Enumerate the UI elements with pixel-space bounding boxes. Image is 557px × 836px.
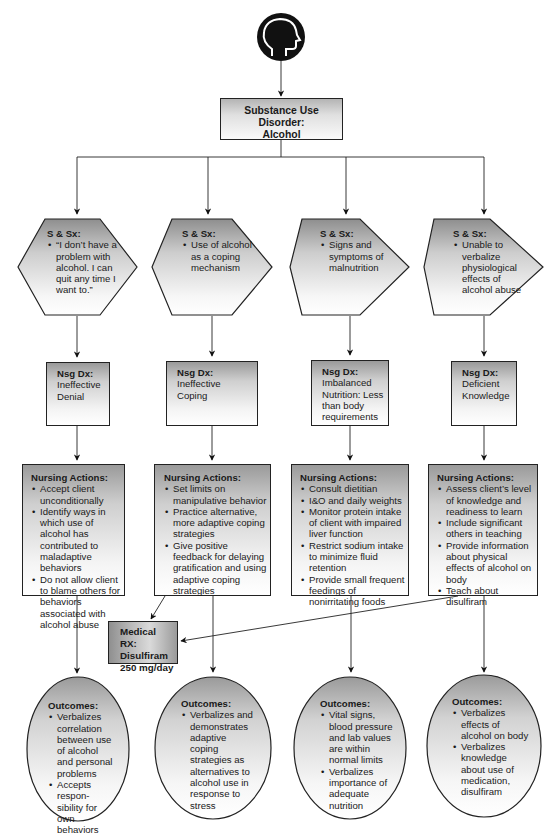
root-line-1: Substance Use (225, 105, 338, 117)
nsg-dx-text: Imbalanced Nutrition: Less than body req… (322, 377, 383, 422)
nursing-action-item: Give positive feedback for delaying grat… (173, 540, 267, 596)
nursing-actions-2: Nursing Actions: Set limits on manipulat… (154, 464, 271, 596)
nursing-action-item: Practice alternative, more adaptive copi… (173, 506, 267, 540)
signs-symptoms-4: S & Sx: Unable to verbalize physiologica… (453, 228, 525, 296)
outcomes-2: Outcomes: Verbalizes and demonstrates ad… (181, 698, 255, 811)
medical-rx-drug: Disulfiram (120, 650, 174, 662)
outcomes-heading: Outcomes: (452, 696, 532, 707)
outcome-item: Vital signs, blood pressure and lab valu… (329, 709, 394, 765)
medical-rx-heading: Medical RX: (120, 626, 174, 650)
nursing-actions-4: Nursing Actions: Assess client’s level o… (428, 464, 538, 596)
nursing-actions-heading: Nursing Actions: (31, 472, 121, 483)
outcomes-3: Outcomes: Vital signs, blood pressure an… (320, 698, 394, 811)
nursing-dx-4: Nsg Dx: Deficient Knowledge (451, 361, 517, 426)
nsg-dx-text: Deficient Knowledge (462, 378, 509, 400)
root-node-substance-use-disorder: Substance Use Disorder: Alcohol (220, 98, 343, 140)
nsg-dx-heading: Nsg Dx: (322, 366, 384, 377)
nursing-action-item: Assess client’s level of knowledge and r… (446, 483, 534, 517)
nursing-actions-3: Nursing Actions: Consult dietitian I&O a… (291, 464, 409, 596)
outcome-item: Verbalizes correlation between use of al… (57, 711, 114, 779)
outcomes-heading: Outcomes: (320, 698, 394, 709)
hex-item: “I don’t have a problem with alcohol. I … (56, 239, 119, 295)
outcome-item: Accepts respon-sibility for own behavior… (57, 779, 114, 835)
nursing-action-item: I&O and daily weights (309, 495, 405, 506)
medical-rx-dose: 250 mg/day (120, 662, 174, 674)
head-profile-icon (257, 13, 305, 61)
outcomes-heading: Outcomes: (181, 698, 255, 709)
outcome-item: Verbalizes knowledge about use of medica… (461, 741, 532, 797)
nursing-action-item: Provide information about physical effec… (446, 540, 534, 585)
nursing-action-item: Accept client unconditionally (40, 483, 121, 506)
nursing-dx-1: Nsg Dx: Ineffective Denial (46, 362, 110, 426)
nsg-dx-text: Ineffective Denial (57, 379, 101, 401)
nursing-action-item: Restrict sodium intake to minimize fluid… (309, 540, 405, 574)
nursing-dx-3: Nsg Dx: Imbalanced Nutrition: Less than … (311, 360, 389, 426)
nursing-action-item: Teach about disulfiram (446, 585, 534, 608)
nursing-action-item: Monitor protein intake of client with im… (309, 506, 405, 540)
hex-item: Signs and symptoms of malnutrition (329, 239, 394, 273)
nursing-action-item: Identify ways in which use of alcohol ha… (40, 506, 121, 574)
hex-heading: S & Sx: (47, 228, 119, 239)
medical-rx-box: Medical RX: Disulfiram 250 mg/day (108, 621, 178, 664)
nursing-action-item: Include significant others in teaching (446, 517, 534, 540)
nursing-actions-heading: Nursing Actions: (300, 472, 405, 483)
nsg-dx-heading: Nsg Dx: (462, 367, 512, 378)
hex-item: Use of alcohol as a coping mechanism (191, 239, 252, 273)
hex-item: Unable to verbalize physiological effect… (462, 239, 525, 295)
outcomes-heading: Outcomes: (48, 700, 114, 711)
hex-heading: S & Sx: (182, 228, 252, 239)
nsg-dx-heading: Nsg Dx: (57, 368, 105, 379)
nursing-action-item: Set limits on manipulative behavior (173, 483, 267, 506)
nursing-action-item: Provide small frequent feedings of nonir… (309, 574, 405, 608)
nursing-actions-1: Nursing Actions: Accept client unconditi… (22, 464, 125, 596)
outcome-item: Verbalizes effects of alcohol on body (461, 707, 532, 741)
signs-symptoms-3: S & Sx: Signs and symptoms of malnutriti… (320, 228, 394, 273)
hex-heading: S & Sx: (320, 228, 394, 239)
nsg-dx-heading: Nsg Dx: (177, 367, 253, 378)
root-line-3: Alcohol (225, 129, 338, 141)
root-line-2: Disorder: (225, 117, 338, 129)
nursing-actions-heading: Nursing Actions: (164, 472, 267, 483)
signs-symptoms-2: S & Sx: Use of alcohol as a coping mecha… (182, 228, 252, 273)
nursing-actions-heading: Nursing Actions: (437, 472, 534, 483)
outcomes-4: Outcomes: Verbalizes effects of alcohol … (452, 696, 532, 798)
nursing-action-item: Consult dietitian (309, 483, 405, 494)
nsg-dx-text: Ineffective Coping (177, 378, 221, 400)
outcome-item: Verbalizes and demonstrates adaptive cop… (190, 709, 255, 811)
outcomes-1: Outcomes: Verbalizes correlation between… (48, 700, 114, 836)
nursing-dx-2: Nsg Dx: Ineffective Coping (166, 361, 258, 426)
signs-symptoms-1: S & Sx: “I don’t have a problem with alc… (47, 228, 119, 296)
hex-heading: S & Sx: (453, 228, 525, 239)
outcome-item: Verbalizes importance of adequate nutrit… (329, 766, 394, 811)
